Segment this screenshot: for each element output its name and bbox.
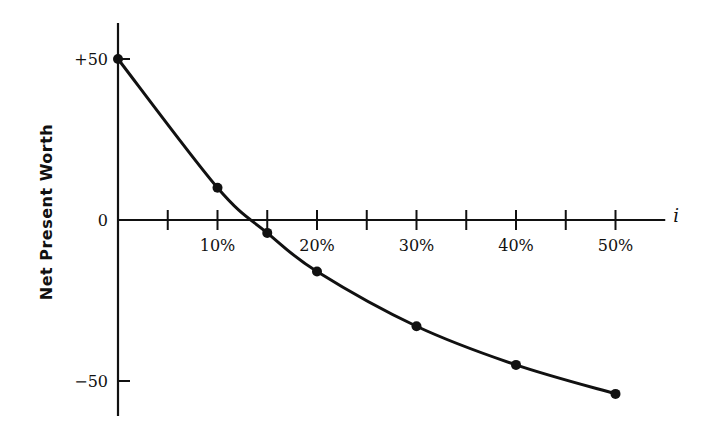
data-point [611, 389, 621, 399]
npw-chart: Net Present Worth i 10%20%30%40%50% +500… [0, 0, 712, 440]
x-tick-label: 10% [200, 236, 236, 255]
y-tick-label: −50 [74, 372, 108, 391]
x-tick-label: 30% [399, 236, 435, 255]
data-point [511, 360, 521, 370]
x-tick-label: 50% [598, 236, 634, 255]
y-axis-label: Net Present Worth [37, 124, 56, 300]
data-point [412, 321, 422, 331]
y-tick-label: 0 [98, 211, 108, 230]
data-point [213, 183, 223, 193]
data-point [262, 228, 272, 238]
x-tick-labels: 10%20%30%40%50% [200, 236, 634, 255]
x-tick-label: 20% [299, 236, 335, 255]
x-axis-variable-label: i [673, 205, 679, 226]
x-tick-label: 40% [498, 236, 534, 255]
y-tick-label: +50 [74, 50, 108, 69]
data-point [312, 267, 322, 277]
data-point [113, 54, 123, 64]
